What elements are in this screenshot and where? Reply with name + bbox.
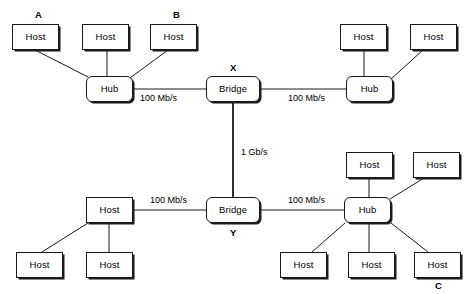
host-label: Host	[294, 260, 314, 270]
group-label-c: C	[435, 281, 442, 291]
host-node-h3[interactable]: Host	[150, 24, 197, 50]
host-label: Host	[100, 205, 120, 215]
host-node-h12[interactable]: Host	[348, 252, 395, 278]
link-layer	[0, 0, 472, 294]
host-label: Host	[424, 32, 444, 42]
link-h3-hubA	[130, 50, 168, 78]
hub-label: Hub	[361, 84, 379, 94]
host-label: Host	[427, 160, 447, 170]
host-label: Host	[26, 32, 46, 42]
host-label: Host	[428, 260, 448, 270]
hub-label: Hub	[359, 205, 377, 215]
host-node-h4[interactable]: Host	[340, 24, 387, 50]
hub-label: Hub	[101, 84, 119, 94]
rate-brY-hubC: 100 Mb/s	[288, 196, 325, 205]
link-h13-hubC	[391, 223, 428, 252]
host-label: Host	[100, 260, 120, 270]
host-label: Host	[362, 260, 382, 270]
host-node-h7[interactable]: Host	[16, 252, 63, 278]
hub-node-hubA[interactable]: Hub	[86, 76, 133, 102]
group-label-y: Y	[230, 228, 236, 238]
rate-hubA-brX: 100 Mb/s	[140, 94, 177, 103]
link-h5-hubB	[390, 50, 423, 80]
host-node-h5[interactable]: Host	[410, 24, 457, 50]
hub-node-hubB[interactable]: Hub	[346, 76, 393, 102]
rate-hub6-brY: 100 Mb/s	[150, 196, 187, 205]
host-node-h2[interactable]: Host	[82, 24, 129, 50]
link-h7-h6	[42, 223, 88, 252]
group-label-a: A	[35, 10, 42, 20]
bridge-node-brX[interactable]: Bridge	[206, 76, 260, 102]
host-label: Host	[96, 32, 116, 42]
host-node-h1[interactable]: Host	[12, 24, 59, 50]
host-node-h13[interactable]: Host	[414, 252, 461, 278]
link-h10-hubC	[390, 178, 424, 199]
link-h1-hubA	[35, 50, 88, 77]
host-label: Host	[164, 32, 184, 42]
network-diagram: HostHostHostHubBridgeHubHostHostBridgeHu…	[0, 0, 472, 294]
rate-brX-brY: 1 Gb/s	[241, 148, 268, 157]
rate-brX-hubB: 100 Mb/s	[288, 94, 325, 103]
host-label: Host	[30, 260, 50, 270]
hub-node-hubC[interactable]: Hub	[344, 197, 391, 223]
host-node-h11[interactable]: Host	[280, 252, 327, 278]
host-node-h10[interactable]: Host	[413, 152, 460, 178]
host-node-h6[interactable]: Host	[86, 197, 133, 223]
group-label-x: X	[230, 63, 236, 73]
host-label: Host	[360, 160, 380, 170]
host-node-h9[interactable]: Host	[346, 152, 393, 178]
bridge-label: Bridge	[219, 84, 247, 94]
bridge-node-brY[interactable]: Bridge	[206, 197, 260, 223]
group-label-b: B	[173, 10, 180, 20]
host-node-h8[interactable]: Host	[86, 252, 133, 278]
bridge-label: Bridge	[219, 205, 247, 215]
host-label: Host	[354, 32, 374, 42]
link-h11-hubC	[312, 223, 345, 252]
